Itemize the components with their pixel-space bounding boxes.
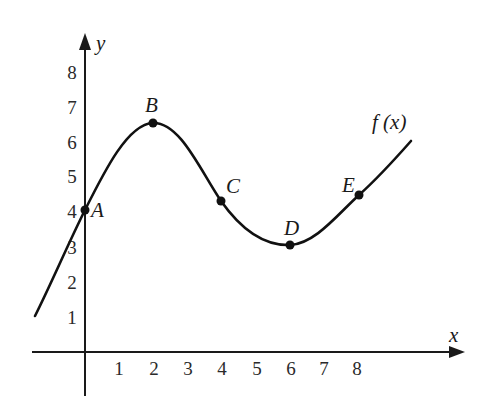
point-b-label: B (145, 93, 158, 117)
x-tick-label: 5 (252, 358, 262, 379)
function-label: f (x) (372, 110, 406, 134)
x-axis-label: x (448, 323, 459, 347)
x-tick-label: 7 (319, 358, 329, 379)
point-e (355, 191, 364, 200)
y-tick-label: 7 (67, 97, 77, 118)
point-d (286, 241, 295, 250)
function-graph: x y 1 2 3 4 5 6 7 8 1 2 3 4 5 6 7 8 f (x… (0, 0, 482, 415)
x-axis-arrow-icon (449, 346, 465, 358)
y-tick-label: 3 (67, 237, 77, 258)
y-tick-label: 5 (67, 166, 77, 187)
y-tick-label: 8 (67, 62, 77, 83)
point-e-label: E (341, 173, 355, 197)
x-tick-label: 6 (286, 358, 296, 379)
y-axis-label: y (94, 31, 106, 55)
y-tick-label: 1 (67, 307, 77, 328)
y-tick-label: 6 (67, 132, 77, 153)
point-a (81, 206, 90, 215)
point-b (149, 119, 158, 128)
x-tick-label: 3 (183, 358, 193, 379)
point-a-label: A (89, 198, 104, 222)
y-axis-arrow-icon (79, 33, 91, 50)
y-tick-labels: 1 2 3 4 5 6 7 8 (67, 62, 77, 328)
x-tick-label: 4 (217, 358, 227, 379)
x-tick-label: 8 (352, 358, 362, 379)
point-c (217, 197, 226, 206)
point-c-label: C (226, 174, 241, 198)
point-d-label: D (283, 216, 299, 240)
x-tick-label: 2 (149, 358, 159, 379)
x-tick-label: 1 (114, 358, 124, 379)
y-tick-label: 4 (67, 201, 77, 222)
x-tick-labels: 1 2 3 4 5 6 7 8 (114, 358, 362, 379)
y-tick-label: 2 (67, 272, 77, 293)
